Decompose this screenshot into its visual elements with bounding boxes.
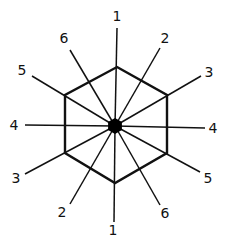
label-bottom-left-2: 2 xyxy=(58,204,67,220)
hexagon-ray-diagram: 1 2 3 4 5 6 1 2 3 4 5 6 xyxy=(0,0,225,241)
label-bottom-right-6: 6 xyxy=(161,205,170,221)
ray-line-1 xyxy=(115,28,117,126)
label-lower-right-5: 5 xyxy=(204,170,213,186)
label-top-1: 1 xyxy=(113,8,122,24)
label-top-right-2: 2 xyxy=(161,30,170,46)
center-hexagon xyxy=(108,118,122,134)
ray-line-3 xyxy=(115,76,201,126)
ray-line-4 xyxy=(25,125,115,126)
ray-line-5 xyxy=(32,76,115,126)
label-upper-left-5: 5 xyxy=(18,62,27,78)
ray-line-4 xyxy=(115,126,205,128)
diagram-svg: 1 2 3 4 5 6 1 2 3 4 5 6 xyxy=(0,0,225,241)
label-left-4: 4 xyxy=(10,117,19,133)
ray-line-1 xyxy=(114,126,115,222)
label-top-left-6: 6 xyxy=(60,30,69,46)
label-upper-right-3: 3 xyxy=(205,64,214,80)
label-right-4: 4 xyxy=(209,120,218,136)
label-bottom-1: 1 xyxy=(109,222,118,238)
label-lower-left-3: 3 xyxy=(12,170,21,186)
